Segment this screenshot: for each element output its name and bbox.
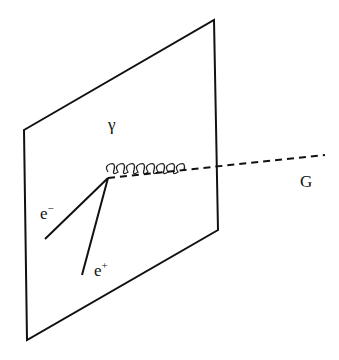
diagram-canvas [0,0,339,360]
electron-label: e− [40,205,54,222]
electron-label-sup: − [48,202,54,214]
positron-label-sup: + [102,259,108,271]
positron-label: e+ [94,262,108,279]
photon-label: γ [108,116,116,133]
positron-label-base: e [94,261,102,280]
electron-label-base: e [40,204,48,223]
graviton-label: G [300,173,312,190]
detector-plane [24,20,218,340]
electron-track [45,178,108,239]
